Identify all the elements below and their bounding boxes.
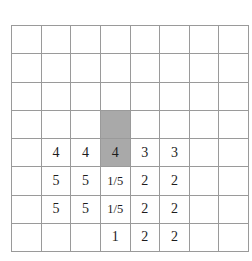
grid-cell-value: 2 [160,174,189,188]
grid-cell-value: 1/5 [101,175,130,188]
grid-cell [219,139,249,167]
grid-cell [130,110,160,138]
grid-cell [71,54,101,82]
grid-cell [41,26,71,54]
grid-cell-value: 2 [160,202,189,216]
grid-cell: 5 [41,167,71,195]
grid-cell [41,82,71,110]
grid-row: 44433 [12,139,249,167]
grid-cell-value: 5 [42,202,71,216]
grid-cell: 2 [130,167,160,195]
grid-cell-shaded [100,110,130,138]
grid-cell: 4 [71,139,101,167]
grid-cell: 2 [130,223,160,251]
grid-cell [12,110,42,138]
grid-cell [219,223,249,251]
grid-cell: 1/5 [100,195,130,223]
grid-cell [12,223,42,251]
grid-cell: 1 [100,223,130,251]
grid-row: 551/522 [12,195,249,223]
grid-cell [71,26,101,54]
grid-cell [219,110,249,138]
grid-cell: 2 [160,195,190,223]
grid-cell: 2 [160,223,190,251]
grid-cell [219,195,249,223]
grid-cell [12,195,42,223]
grid-cell [41,54,71,82]
grid-cell: 3 [130,139,160,167]
grid-cell [219,54,249,82]
grid-cell-value: 5 [42,174,71,188]
grid-cell [71,223,101,251]
grid-row [12,26,249,54]
grid-cell-value: 4 [71,146,100,160]
grid-cell [189,54,219,82]
grid-cell: 4 [41,139,71,167]
grid-cell [219,167,249,195]
grid-cell [12,54,42,82]
grid-cell [12,139,42,167]
grid-cell-value: 5 [71,202,100,216]
grid-cell [189,167,219,195]
grid-cell [100,26,130,54]
grid-container: 44433551/522551/522122 [11,25,240,243]
grid-cell: 3 [160,139,190,167]
grid-cell [12,82,42,110]
grid-cell: 5 [41,195,71,223]
grid-cell-value: 3 [131,146,160,160]
grid-cell-value: 4 [42,146,71,160]
grid-body: 44433551/522551/522122 [12,26,249,252]
grid-cell-value: 2 [160,230,189,244]
grid-cell [219,26,249,54]
grid-cell-value: 4 [101,146,130,160]
figure-canvas: 44433551/522551/522122 [0,0,252,261]
grid-cell [130,82,160,110]
grid-cell [130,26,160,54]
grid-cell [100,82,130,110]
grid-cell [71,82,101,110]
grid-cell [189,82,219,110]
grid-cell: 5 [71,167,101,195]
grid-cell [219,82,249,110]
grid-cell [189,26,219,54]
grid-cell-value: 2 [131,202,160,216]
grid-cell-value: 1/5 [101,203,130,216]
grid-cell [160,110,190,138]
grid-cell [160,82,190,110]
grid-row [12,54,249,82]
grid-cell [12,26,42,54]
grid-cell [71,110,101,138]
grid-cell [189,110,219,138]
grid-row: 551/522 [12,167,249,195]
grid-cell [41,223,71,251]
grid-cell [189,195,219,223]
grid-cell [189,223,219,251]
grid-cell [12,167,42,195]
grid-cell: 1/5 [100,167,130,195]
grid-cell [160,54,190,82]
grid-row [12,82,249,110]
grid-cell-value: 5 [71,174,100,188]
grid-cell-value: 2 [131,230,160,244]
grid-cell-shaded: 4 [100,139,130,167]
grid-cell [41,110,71,138]
grid-cell-value: 2 [131,174,160,188]
grid-cell [189,139,219,167]
value-grid: 44433551/522551/522122 [11,25,249,252]
grid-cell [160,26,190,54]
grid-cell: 5 [71,195,101,223]
grid-cell-value: 1 [101,230,130,244]
grid-cell: 2 [130,195,160,223]
grid-cell-value: 3 [160,146,189,160]
grid-cell [130,54,160,82]
grid-cell [100,54,130,82]
grid-cell: 2 [160,167,190,195]
grid-row [12,110,249,138]
grid-row: 122 [12,223,249,251]
